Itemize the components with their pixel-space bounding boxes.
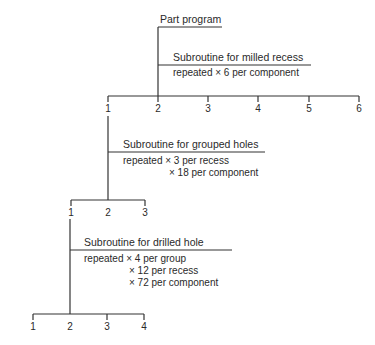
level-2-branch-1: 1 [65, 207, 77, 219]
level-3-branch-1: 1 [27, 321, 39, 333]
level-2-title: Subroutine for grouped holes [123, 138, 258, 150]
level-1-branch-6: 6 [353, 103, 365, 115]
level-3-repeat-2: × 12 per recess [129, 265, 198, 277]
root-title: Part program [160, 13, 221, 25]
level-3-branch-3: 3 [101, 321, 113, 333]
level-3-branch-2: 2 [64, 321, 76, 333]
level-1-branch-5: 5 [303, 103, 315, 115]
level-3-title: Subroutine for drilled hole [84, 236, 204, 248]
level-1-branch-3: 3 [202, 103, 214, 115]
level-3-branch-4: 4 [138, 321, 150, 333]
level-1-branch-1: 1 [102, 103, 114, 115]
level-3-repeat-3: × 72 per component [129, 277, 218, 289]
level-1-repeat: repeated × 6 per component [173, 67, 299, 79]
level-2-branch-2: 2 [102, 207, 114, 219]
level-1-branch-4: 4 [252, 103, 264, 115]
level-3-repeat-1: repeated × 4 per group [84, 253, 186, 265]
level-1-title: Subroutine for milled recess [173, 51, 303, 63]
level-2-repeat-1: repeated × 3 per recess [123, 155, 229, 167]
level-2-branch-3: 3 [139, 207, 151, 219]
level-1-branch-2: 2 [152, 103, 164, 115]
level-2-repeat-2: × 18 per component [169, 167, 258, 179]
